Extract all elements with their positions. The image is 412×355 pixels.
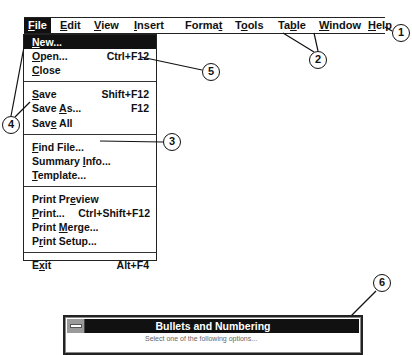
menu-item-find-file[interactable]: Find File... [24,140,156,154]
dialog-title-bar[interactable]: Bullets and Numbering [67,319,359,333]
menu-bar: File Edit View Insert Format Tools Table… [24,17,385,34]
menu-item-print-setup[interactable]: Print Setup... [24,234,156,248]
menu-window[interactable]: Window [315,18,365,33]
callout-6: 6 [373,274,391,292]
menu-item-label: Exit [32,259,51,271]
menu-item-shortcut: Ctrl+F12 [107,49,149,63]
menu-item-label: Print Preview [32,193,99,205]
menu-item-label: Open... [32,50,68,62]
menu-item-label: Template... [32,169,86,181]
menu-item-label: New... [32,36,62,48]
menu-item-print-preview[interactable]: Print Preview [24,192,156,206]
menu-item-label: Close [32,64,61,76]
menu-help[interactable]: Help [364,18,396,33]
menu-item-label: Find File... [32,141,84,153]
bullets-and-numbering-dialog: Bullets and Numbering Select one of the … [63,315,363,355]
callout-4: 4 [2,116,20,134]
menu-item-summary-info[interactable]: Summary Info... [24,154,156,168]
control-menu-box-icon[interactable] [67,319,85,333]
menu-table[interactable]: Table [274,18,310,33]
menu-item-shortcut: Alt+F4 [117,258,149,272]
menu-separator [24,252,156,253]
callout-2: 2 [309,51,327,69]
menu-item-save-all[interactable]: Save All [24,116,156,130]
file-menu-dropdown: New...Open...Ctrl+F12CloseSaveShift+F12S… [23,34,157,261]
menu-separator [24,81,156,82]
menu-item-template[interactable]: Template... [24,168,156,182]
menu-insert[interactable]: Insert [130,18,168,33]
menu-item-shortcut: Shift+F12 [101,87,149,101]
menu-tools[interactable]: Tools [231,18,268,33]
menu-item-exit[interactable]: ExitAlt+F4 [24,258,156,272]
menu-item-label: Print Setup... [32,235,97,247]
menu-edit[interactable]: Edit [56,18,85,33]
menu-item-label: Save All [32,117,72,129]
menu-item-new[interactable]: New... [24,35,156,49]
menu-item-print-merge[interactable]: Print Merge... [24,220,156,234]
callout-3: 3 [163,133,181,151]
menu-item-label: Summary Info... [32,155,111,167]
menu-item-close[interactable]: Close [24,63,156,77]
menu-item-shortcut: F12 [131,101,149,115]
menu-view[interactable]: View [90,18,123,33]
menu-item-save[interactable]: SaveShift+F12 [24,87,156,101]
menu-item-save-as[interactable]: Save As...F12 [24,101,156,115]
dialog-body-text: Select one of the following options... [145,335,257,342]
menu-file[interactable]: File [24,18,51,33]
callout-1: 1 [392,24,410,42]
menu-item-open[interactable]: Open...Ctrl+F12 [24,49,156,63]
menu-item-label: Print Merge... [32,221,99,233]
menu-separator [24,134,156,135]
menu-format[interactable]: Format [181,18,226,33]
menu-item-shortcut: Ctrl+Shift+F12 [78,206,150,220]
menu-item-label: Save As... [32,102,81,114]
callout-5: 5 [202,63,220,81]
menu-item-label: Print... [32,207,65,219]
dialog-title: Bullets and Numbering [156,320,271,332]
menu-item-print[interactable]: Print...Ctrl+Shift+F12 [24,206,156,220]
menu-separator [24,186,156,187]
menu-item-label: Save [32,88,57,100]
